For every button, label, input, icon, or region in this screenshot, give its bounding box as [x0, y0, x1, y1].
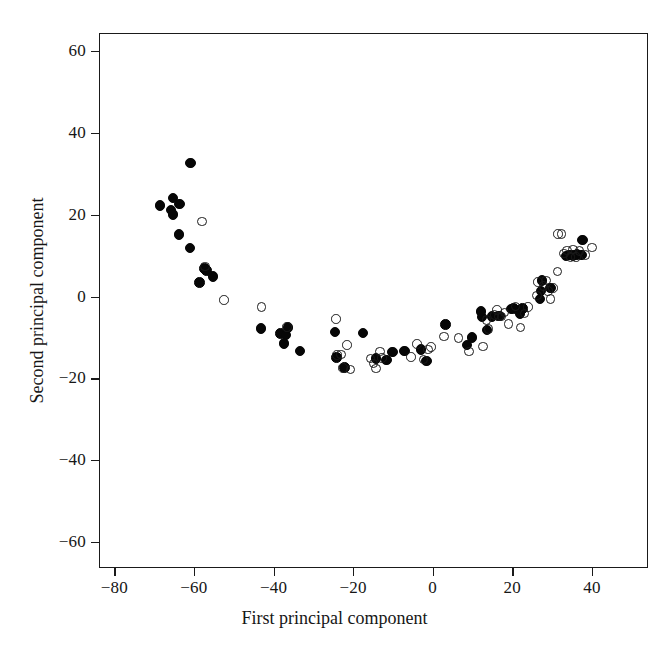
y-axis-tick	[91, 297, 99, 298]
x-axis-tick	[194, 568, 195, 576]
x-axis-tick-label: −60	[180, 578, 207, 598]
y-axis-tick	[91, 378, 99, 379]
x-axis-label: First principal component	[0, 608, 669, 629]
y-axis-label: Second principal component	[22, 33, 52, 568]
plot-frame	[99, 33, 648, 568]
y-axis-tick-label: −20	[59, 368, 86, 388]
y-axis-tick-label: −40	[59, 450, 86, 470]
y-axis-tick	[91, 215, 99, 216]
y-axis-tick	[91, 460, 99, 461]
x-axis-tick	[512, 568, 513, 576]
x-axis-tick-label: 40	[583, 578, 600, 598]
y-axis-tick-label: −60	[59, 532, 86, 552]
scatter-plot-figure: −80−60−40−2002040−60−40−200204060 First …	[0, 0, 669, 650]
x-axis-tick	[433, 568, 434, 576]
x-axis-tick	[353, 568, 354, 576]
y-axis-tick-label: 0	[77, 287, 86, 307]
x-axis-tick-label: −40	[260, 578, 287, 598]
x-axis-tick	[592, 568, 593, 576]
y-axis-tick	[91, 51, 99, 52]
x-axis-tick	[274, 568, 275, 576]
y-axis-tick-label: 20	[69, 205, 86, 225]
x-axis-tick-label: 20	[504, 578, 521, 598]
x-axis-tick-label: 0	[428, 578, 437, 598]
x-axis-tick	[114, 568, 115, 576]
x-axis-tick-label: −20	[340, 578, 367, 598]
y-axis-tick	[91, 542, 99, 543]
y-axis-tick-label: 60	[69, 41, 86, 61]
y-axis-tick-label: 40	[69, 123, 86, 143]
y-axis-tick	[91, 133, 99, 134]
x-axis-tick-label: −80	[101, 578, 128, 598]
